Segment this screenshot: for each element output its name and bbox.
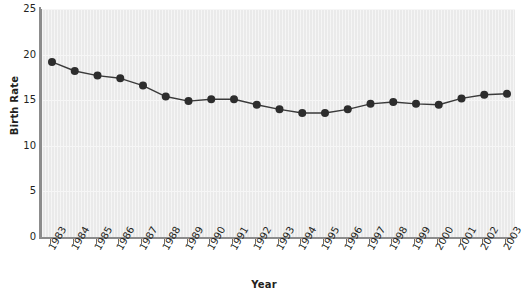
data-point-1985 [94, 72, 102, 80]
data-point-1995 [321, 109, 329, 117]
y-tick-label-20: 20 [2, 50, 36, 60]
data-point-1987 [139, 82, 147, 90]
y-tick-label-25: 25 [2, 4, 36, 14]
data-point-1996 [344, 105, 352, 113]
data-point-1999 [412, 100, 420, 108]
data-point-1988 [162, 93, 170, 101]
y-axis-line [39, 7, 41, 239]
y-tick-label-5: 5 [2, 186, 36, 196]
birth-rate-line-chart: 0510152025 19831984198519861987198819891… [0, 0, 528, 298]
x-axis-title: Year [0, 279, 528, 290]
data-point-1984 [71, 67, 79, 75]
data-point-1983 [48, 58, 56, 66]
y-axis-title: Birth Rate [9, 66, 20, 146]
data-point-1990 [207, 95, 215, 103]
y-axis-tick-labels: 0510152025 [0, 0, 36, 298]
y-tick-label-0: 0 [2, 232, 36, 242]
data-point-2000 [435, 101, 443, 109]
data-point-2003 [503, 90, 511, 98]
data-point-1994 [298, 109, 306, 117]
series-birth-rate [42, 9, 515, 237]
data-point-1998 [389, 98, 397, 106]
series-markers [48, 58, 511, 117]
data-point-2002 [480, 91, 488, 99]
data-point-2001 [458, 94, 466, 102]
plot-area [40, 9, 515, 237]
data-point-1991 [230, 95, 238, 103]
data-point-1986 [116, 74, 124, 82]
data-point-1993 [276, 105, 284, 113]
data-point-1997 [367, 100, 375, 108]
data-point-1989 [185, 97, 193, 105]
data-point-1992 [253, 101, 261, 109]
